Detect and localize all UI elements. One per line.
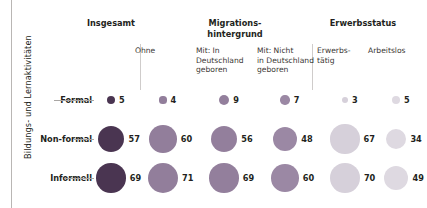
bubble-formal-c2[interactable] bbox=[219, 95, 230, 106]
bubble-value: 70 bbox=[364, 173, 375, 183]
bubble-value: 5 bbox=[119, 95, 125, 105]
bubble-informell-c3[interactable] bbox=[271, 164, 299, 192]
bubble-chart: Bildungs- und Lernaktivitäten InsgesamtM… bbox=[0, 0, 427, 208]
bubble-value: 9 bbox=[233, 95, 239, 105]
column-header: Arbeitslos bbox=[368, 46, 427, 56]
bubble-formal-c4[interactable] bbox=[342, 97, 348, 103]
bubble-non-formal-c0[interactable] bbox=[98, 126, 125, 153]
bubble-informell-c0[interactable] bbox=[96, 163, 126, 193]
bubble-value: 49 bbox=[412, 173, 423, 183]
row-leader-line bbox=[64, 178, 94, 179]
bubble-value: 60 bbox=[303, 173, 314, 183]
bubble-value: 3 bbox=[352, 95, 358, 105]
bubble-value: 56 bbox=[241, 134, 252, 144]
bubble-formal-c5[interactable] bbox=[392, 96, 400, 104]
bubble-value: 5 bbox=[404, 95, 410, 105]
bubble-value: 7 bbox=[294, 95, 300, 105]
bubble-value: 57 bbox=[128, 134, 139, 144]
column-header: Ohne bbox=[135, 46, 197, 56]
row-leader-line bbox=[74, 139, 94, 140]
group-header: Insgesamt bbox=[41, 18, 181, 29]
bubble-formal-c0[interactable] bbox=[107, 96, 115, 104]
row-leader-line bbox=[54, 100, 94, 101]
bubble-value: 67 bbox=[364, 134, 375, 144]
bubble-value: 69 bbox=[130, 173, 141, 183]
bubble-non-formal-c5[interactable] bbox=[386, 129, 407, 150]
bubble-formal-c3[interactable] bbox=[280, 95, 289, 104]
bubble-non-formal-c3[interactable] bbox=[273, 127, 298, 152]
column-header: Mit: Nicht in Deutschland geboren bbox=[257, 46, 319, 75]
left-frame-rule bbox=[11, 0, 12, 208]
bubble-non-formal-c1[interactable] bbox=[149, 125, 177, 153]
bubble-non-formal-c4[interactable] bbox=[330, 124, 359, 153]
bubble-informell-c1[interactable] bbox=[148, 163, 178, 193]
bubble-value: 60 bbox=[181, 134, 192, 144]
bubble-informell-c5[interactable] bbox=[384, 166, 409, 191]
bubble-formal-c1[interactable] bbox=[159, 96, 166, 103]
bubble-value: 4 bbox=[171, 95, 177, 105]
bubble-informell-c4[interactable] bbox=[330, 163, 360, 193]
bubble-value: 69 bbox=[243, 173, 254, 183]
group-header: Erwerbsstatus bbox=[293, 18, 427, 29]
bubble-value: 71 bbox=[182, 173, 193, 183]
bubble-non-formal-c2[interactable] bbox=[211, 126, 238, 153]
bubble-value: 34 bbox=[410, 134, 421, 144]
column-header: Mit: In Deutschland geboren bbox=[196, 46, 258, 75]
bubble-informell-c2[interactable] bbox=[209, 163, 239, 193]
bubble-value: 48 bbox=[301, 134, 312, 144]
group-header: Migrations- hintergrund bbox=[165, 18, 305, 39]
